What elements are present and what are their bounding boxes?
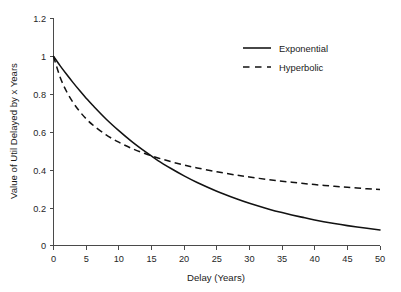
x-tick-label: 20 bbox=[179, 254, 189, 264]
y-tick-label: 1.2 bbox=[33, 14, 46, 24]
x-tick-label: 0 bbox=[51, 254, 56, 264]
chart-background bbox=[0, 0, 401, 292]
y-tick-label: 1 bbox=[41, 52, 46, 62]
y-tick-label: 0.4 bbox=[33, 166, 46, 176]
x-tick-label: 40 bbox=[310, 254, 320, 264]
y-tick-label: 0.2 bbox=[33, 204, 46, 214]
y-tick-label: 0.6 bbox=[33, 128, 46, 138]
y-tick-label: 0 bbox=[41, 241, 46, 251]
legend-label-hyperbolic: Hyperbolic bbox=[279, 62, 324, 73]
x-tick-label: 15 bbox=[146, 254, 156, 264]
x-tick-label: 30 bbox=[244, 254, 254, 264]
discounting-curves-figure: 1.2 1 0.8 0.6 0.4 0.2 0 0 5 10 15 20 bbox=[0, 0, 401, 292]
y-axis-title: Value of Util Delayed by x Years bbox=[8, 63, 19, 199]
x-tick-label: 25 bbox=[212, 254, 222, 264]
chart-svg: 1.2 1 0.8 0.6 0.4 0.2 0 0 5 10 15 20 bbox=[0, 0, 401, 292]
x-axis-title: Delay (Years) bbox=[187, 272, 245, 283]
x-tick-label: 5 bbox=[84, 254, 89, 264]
x-tick-label: 50 bbox=[375, 254, 385, 264]
legend-label-exponential: Exponential bbox=[279, 43, 328, 54]
x-tick-label: 35 bbox=[277, 254, 287, 264]
y-tick-label: 0.8 bbox=[33, 90, 46, 100]
x-tick-label: 10 bbox=[114, 254, 124, 264]
x-tick-label: 45 bbox=[342, 254, 352, 264]
